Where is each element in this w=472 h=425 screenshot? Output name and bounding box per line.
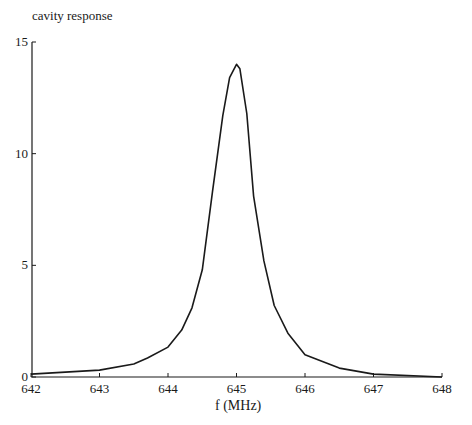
y-axis-title: cavity response — [32, 8, 113, 24]
x-tick-label: 643 — [90, 381, 110, 396]
x-tick-label: 645 — [227, 381, 247, 396]
x-axis-title: f (MHz) — [215, 398, 261, 414]
y-tick-label: 15 — [15, 34, 28, 49]
data-line — [31, 64, 442, 377]
x-tick-label: 648 — [432, 381, 452, 396]
x-tick-label: 642 — [21, 381, 41, 396]
x-tick-label: 644 — [158, 381, 178, 396]
chart-canvas: 051015642643644645646647648 — [0, 0, 472, 425]
y-tick-label: 5 — [22, 257, 29, 272]
x-tick-label: 647 — [364, 381, 384, 396]
y-tick-label: 10 — [15, 146, 28, 161]
x-tick-label: 646 — [295, 381, 315, 396]
